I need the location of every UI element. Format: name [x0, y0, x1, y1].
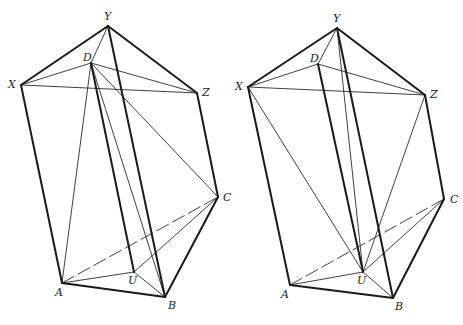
vertex-label-A: A	[280, 288, 289, 301]
edge-XZ	[248, 87, 425, 95]
edge-DZ	[318, 64, 425, 95]
vertex-label-D: D	[82, 51, 92, 64]
vertex-label-U: U	[357, 274, 367, 287]
edge-YB	[108, 26, 165, 297]
vertex-label-Z: Z	[429, 88, 438, 101]
left-figure: YDXZCAUB	[7, 10, 232, 312]
edge-ZU	[363, 95, 425, 272]
vertex-label-C: C	[450, 193, 459, 206]
vertex-label-Y: Y	[104, 10, 113, 23]
vertex-label-A: A	[54, 286, 63, 299]
edge-ZC	[197, 93, 218, 197]
edge-BC	[393, 199, 444, 298]
vertex-label-X: X	[7, 78, 17, 91]
vertex-label-U: U	[128, 274, 138, 287]
vertex-label-C: C	[223, 191, 232, 204]
edge-XZ	[21, 85, 197, 93]
edge-ZC	[425, 95, 444, 199]
edge-XD	[21, 63, 91, 85]
edge-YZ	[108, 26, 197, 93]
edge-XY	[248, 28, 337, 87]
edge-AB	[290, 285, 393, 298]
vertex-label-B: B	[394, 300, 403, 313]
edge-XD	[248, 64, 318, 87]
edge-DU	[91, 63, 134, 272]
vertex-label-Y: Y	[333, 12, 342, 25]
edge-DC	[91, 63, 218, 197]
edge-XU	[248, 87, 363, 272]
edge-XA	[21, 85, 62, 283]
edge-XA	[248, 87, 290, 285]
polyhedron-diagram: YDXZCAUB YDXZCAUB	[0, 0, 463, 325]
right-figure: YDXZCAUB	[234, 12, 459, 313]
edge-YZ	[337, 28, 425, 95]
vertex-label-X: X	[234, 80, 244, 93]
edge-DA	[62, 63, 91, 283]
vertex-label-Z: Z	[201, 86, 210, 99]
edge-DU	[318, 64, 363, 272]
vertex-label-D: D	[309, 52, 319, 65]
edge-YB	[337, 28, 393, 298]
vertex-label-B: B	[167, 299, 176, 312]
edge-YU	[337, 28, 363, 272]
edge-DB	[91, 63, 165, 297]
